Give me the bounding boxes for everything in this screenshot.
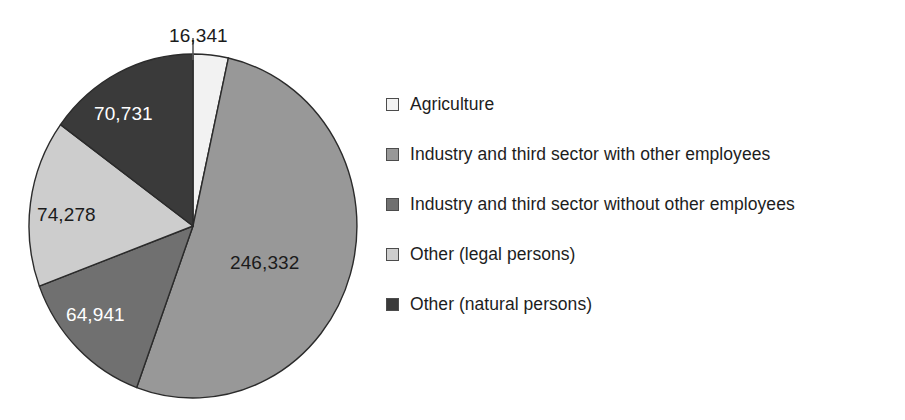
slice-value-label-industry-without-employees: 64,941 — [66, 305, 125, 324]
legend-swatch-icon — [386, 248, 399, 261]
legend-swatch-icon — [386, 198, 399, 211]
legend-item-agriculture[interactable]: Agriculture — [386, 94, 896, 115]
legend-item-label: Industry and third sector without other … — [410, 196, 795, 214]
legend-swatch-icon — [386, 98, 399, 111]
slice-value-label-industry-with-employees: 246,332 — [230, 253, 299, 272]
legend-swatch-icon — [386, 298, 399, 311]
slice-value-label-other-natural-persons: 70,731 — [94, 104, 153, 123]
legend-item-label: Agriculture — [410, 96, 494, 114]
pie-slice-group — [29, 54, 357, 398]
legend-item-label: Other (legal persons) — [410, 246, 575, 264]
legend-item-industry-without-other-employees[interactable]: Industry and third sector without other … — [386, 194, 896, 215]
legend-item-other-natural-persons[interactable]: Other (natural persons) — [386, 294, 896, 315]
legend-swatch-icon — [386, 148, 399, 161]
legend: Agriculture Industry and third sector wi… — [386, 94, 896, 315]
legend-item-other-legal-persons[interactable]: Other (legal persons) — [386, 244, 896, 265]
legend-item-label: Other (natural persons) — [410, 296, 592, 314]
pie-chart: 16,341 246,332 64,941 74,278 70,731 Agri… — [0, 0, 905, 420]
legend-item-industry-with-other-employees[interactable]: Industry and third sector with other emp… — [386, 144, 896, 165]
slice-value-label-agriculture: 16,341 — [169, 26, 228, 45]
pie-plot-area: 16,341 246,332 64,941 74,278 70,731 — [0, 0, 380, 420]
slice-value-label-other-legal-persons: 74,278 — [37, 205, 96, 224]
legend-item-label: Industry and third sector with other emp… — [410, 146, 770, 164]
